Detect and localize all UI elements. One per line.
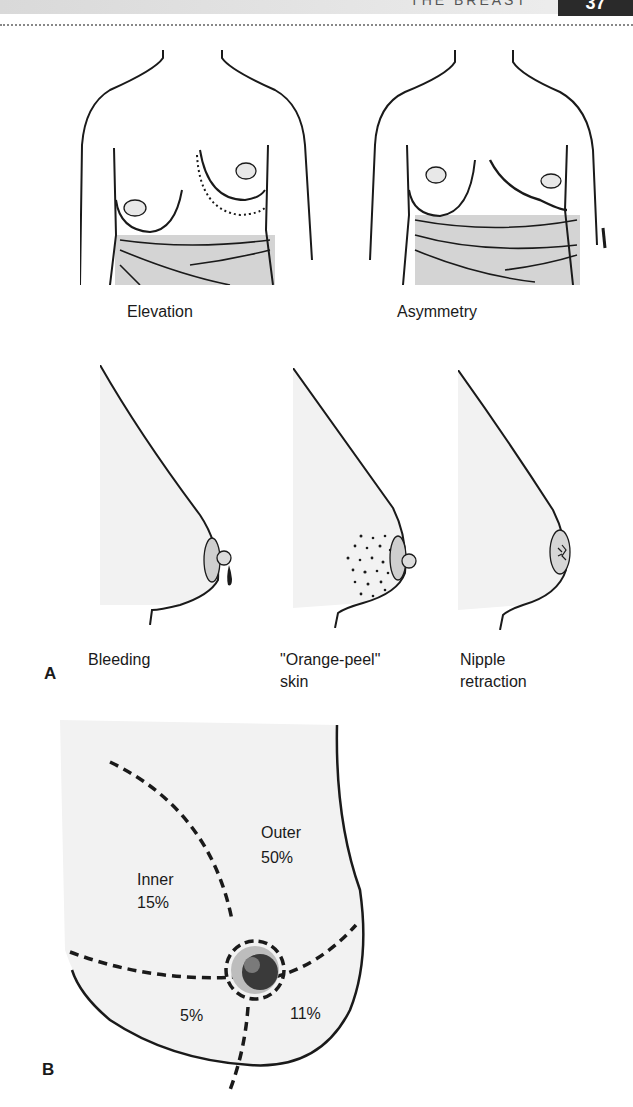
label-elevation: Elevation [127, 302, 193, 321]
figure-elevation-frontal [80, 50, 320, 285]
figure-bleeding-profile [100, 365, 240, 625]
running-title: THE BREAST [410, 0, 528, 8]
breast-profile-nipple-retraction-illustration [458, 370, 598, 630]
breast-profile-orange-peel-illustration [293, 368, 433, 628]
page-number-tab: 37 [558, 0, 633, 16]
quadrant-outer-percent: 50% [261, 848, 293, 867]
torso-asymmetry-illustration [355, 50, 615, 285]
label-nipple-retraction-line1: Nipple [460, 650, 505, 669]
quadrant-lower-outer-percent: 11% [290, 1004, 321, 1023]
label-orange-peel-line2: skin [280, 672, 308, 691]
dotted-rule-divider [0, 24, 633, 26]
torso-elevation-illustration [80, 50, 320, 285]
label-bleeding: Bleeding [88, 650, 150, 669]
figure-orange-peel-profile [293, 368, 433, 628]
label-asymmetry: Asymmetry [397, 302, 477, 321]
label-nipple-retraction-line2: retraction [460, 672, 527, 691]
panel-letter-b: B [42, 1060, 54, 1080]
label-orange-peel-line1: "Orange-peel" [280, 650, 380, 669]
running-header-bar: THE BREAST [0, 0, 633, 14]
quadrant-outer-name: Outer [261, 823, 301, 842]
breast-quadrant-illustration [60, 720, 370, 1090]
quadrant-inner-name: Inner [137, 870, 173, 889]
panel-letter-a: A [44, 664, 56, 684]
figure-asymmetry-frontal [355, 50, 615, 285]
page-number: 37 [585, 0, 605, 13]
figure-nipple-retraction-profile [458, 370, 598, 630]
quadrant-lower-inner-percent: 5% [180, 1006, 203, 1025]
breast-profile-bleeding-illustration [100, 365, 240, 625]
figure-quadrant-diagram [60, 720, 370, 1090]
quadrant-inner-percent: 15% [137, 893, 169, 912]
